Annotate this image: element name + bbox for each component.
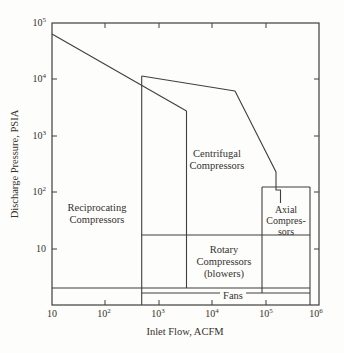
x-tick-label: 106	[309, 309, 323, 319]
recip-top-boundary	[52, 34, 187, 111]
region-label-axial-compressors: Axial Compres- sors	[266, 204, 305, 237]
y-tick-label: 10	[12, 244, 46, 254]
y-axis-title: Discharge Pressure, PSIA	[9, 110, 20, 219]
x-tick-label: 102	[97, 309, 111, 319]
centrifugal-right-boundary	[235, 91, 281, 203]
y-tick-label: 103	[12, 131, 46, 141]
x-tick-label: 104	[205, 309, 219, 319]
region-label-reciprocating-compressors: Reciprocating Compressors	[68, 202, 127, 226]
x-tick-label: 103	[151, 309, 165, 319]
x-axis-title: Inlet Flow, ACFM	[146, 326, 223, 337]
region-label-rotary-compressors: Rotary Compressors (blowers)	[197, 244, 252, 280]
plot-border	[52, 23, 319, 305]
y-tick-label: 105	[12, 18, 46, 28]
region-label-fans: Fans	[220, 290, 246, 302]
centrifugal-top-boundary	[142, 76, 235, 91]
compressor-operating-range-chart: Discharge Pressure, PSIA Inlet Flow, ACF…	[0, 0, 344, 353]
region-label-centrifugal-compressors: Centrifugal Compressors	[190, 148, 245, 172]
y-tick-label: 104	[12, 74, 46, 84]
x-tick-label: 10	[47, 309, 57, 319]
x-tick-label: 105	[259, 309, 273, 319]
plot-area	[0, 0, 344, 353]
y-tick-label: 102	[12, 187, 46, 197]
